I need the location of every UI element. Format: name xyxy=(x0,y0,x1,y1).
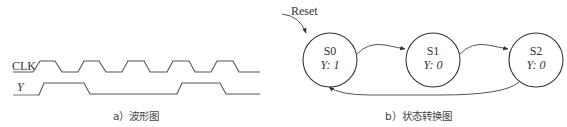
transition-s1-s2-arrow xyxy=(460,44,508,54)
state-s2: S2 Y: 0 xyxy=(509,33,563,87)
waveform-caption: a）波形图 xyxy=(113,110,159,122)
state-s2-output: Y: 0 xyxy=(527,58,546,72)
transition-s0-s1-arrow xyxy=(357,44,405,54)
state-s0-output: Y: 1 xyxy=(321,58,340,72)
state-s0: S0 Y: 1 xyxy=(303,33,357,87)
state-s0-name: S0 xyxy=(324,44,337,58)
clk-label: CLK xyxy=(12,59,36,73)
clk-signal xyxy=(13,61,260,72)
waveform-panel: CLK Y a）波形图 xyxy=(12,59,260,122)
state-s1-name: S1 xyxy=(427,44,440,58)
reset-label: Reset xyxy=(291,4,318,18)
state-s1: S1 Y: 0 xyxy=(406,33,460,87)
y-signal xyxy=(36,83,260,95)
state-s2-name: S2 xyxy=(530,44,543,58)
state-diagram-caption: b）状态转换图 xyxy=(385,110,452,122)
y-label: Y xyxy=(17,80,25,94)
state-diagram-panel: Reset S0 Y: 1 S1 Y: 0 S2 Y: 0 b）状态转换图 xyxy=(282,4,563,122)
diagram-canvas: CLK Y a）波形图 Reset S0 Y: 1 S1 Y: 0 S2 Y: … xyxy=(0,0,567,127)
state-s1-output: Y: 0 xyxy=(424,58,443,72)
